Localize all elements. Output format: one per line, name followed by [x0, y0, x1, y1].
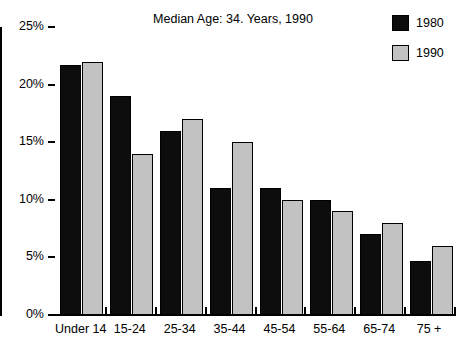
y-tick-label: 10%	[0, 193, 44, 206]
bar-1990-35-44	[232, 142, 253, 315]
bar-1980-15-24	[110, 96, 131, 315]
y-tick-mark	[48, 84, 55, 86]
bar-1990-15-24	[132, 154, 153, 315]
bar-1980-45-54	[260, 188, 281, 315]
bar-1990-75-+	[432, 246, 453, 315]
y-tick-mark	[48, 199, 55, 201]
x-tick-label: 15-24	[105, 322, 155, 337]
y-tick-mark	[48, 26, 55, 28]
y-tick-label: 15%	[0, 135, 44, 148]
chart-title: Median Age: 34. Years, 1990	[118, 12, 348, 26]
x-axis-labels: Under 1415-2425-3435-4445-5455-6465-7475…	[55, 322, 456, 342]
bar-1990-55-64	[332, 211, 353, 315]
bar-1990-65-74	[382, 223, 403, 315]
y-tick-label: 0%	[0, 308, 44, 321]
bar-1980-55-64	[310, 200, 331, 315]
y-tick-label: 25%	[0, 20, 44, 33]
bar-1980-Under-14	[60, 65, 81, 315]
bar-1980-25-34	[160, 131, 181, 315]
bar-1980-65-74	[360, 234, 381, 315]
y-tick-mark	[48, 256, 55, 258]
x-tick-label: Under 14	[55, 322, 105, 337]
y-axis-line	[0, 27, 2, 316]
x-tick-label: 75 +	[404, 322, 454, 337]
x-tick-label: 45-54	[255, 322, 305, 337]
y-tick-label: 5%	[0, 250, 44, 263]
y-tick-mark	[48, 314, 55, 316]
x-tick-label: 65-74	[354, 322, 404, 337]
bar-1980-35-44	[210, 188, 231, 315]
x-tick-label: 25-34	[155, 322, 205, 337]
bar-1980-75-+	[410, 261, 431, 315]
bar-1990-25-34	[182, 119, 203, 315]
bar-1990-45-54	[282, 200, 303, 315]
x-tick-label: 35-44	[205, 322, 255, 337]
x-tick-label: 55-64	[304, 322, 354, 337]
y-tick-label: 20%	[0, 78, 44, 91]
bars-area	[57, 27, 456, 315]
y-tick-mark	[48, 141, 55, 143]
bar-chart: Median Age: 34. Years, 1990 1980 1990 0%…	[0, 0, 461, 353]
bar-1990-Under-14	[82, 62, 103, 315]
